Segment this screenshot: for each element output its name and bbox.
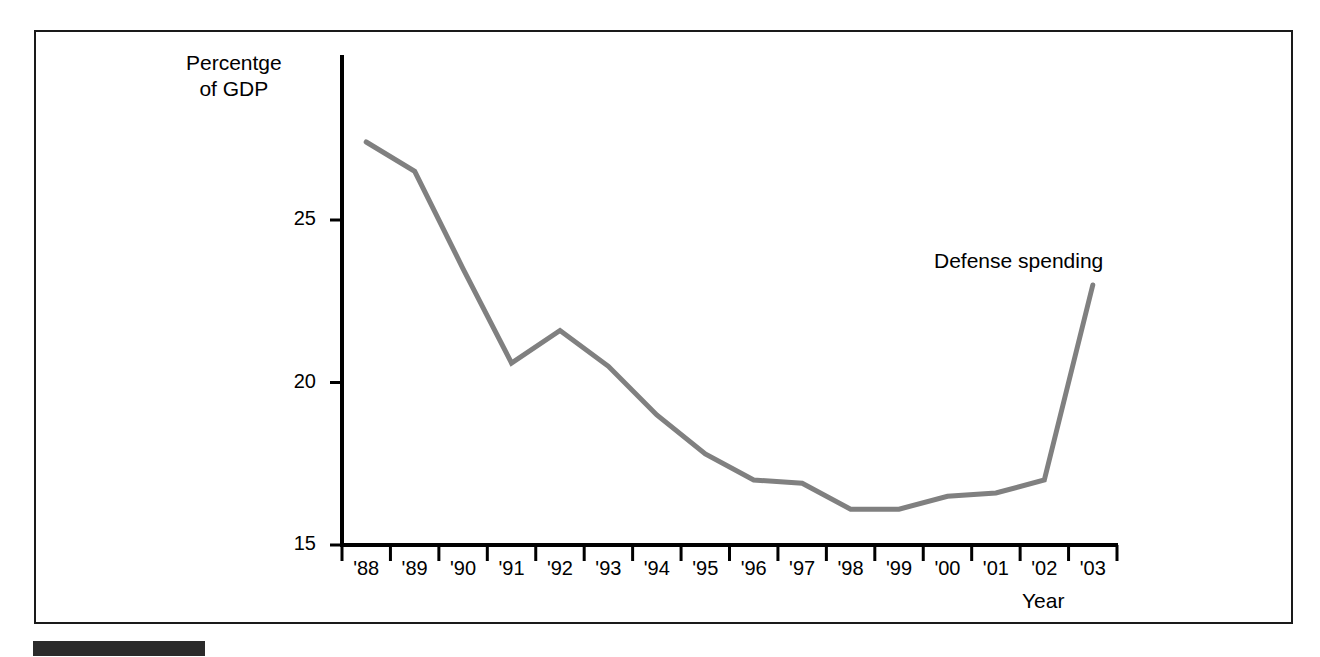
y-axis-title-line: of GDP — [186, 76, 282, 102]
figure-container: Percentgeof GDP Year Defense spending 15… — [0, 0, 1320, 657]
y-axis-tick-label: 20 — [252, 370, 316, 393]
defense-spending-line — [366, 142, 1093, 509]
series-annotation-defense-spending: Defense spending — [934, 249, 1103, 273]
y-axis-tick-label: 25 — [252, 207, 316, 230]
y-axis-title: Percentgeof GDP — [186, 50, 282, 103]
y-axis-tick-label: 15 — [252, 532, 316, 555]
x-axis-title: Year — [1022, 588, 1064, 614]
y-axis-title-line: Percentge — [186, 50, 282, 76]
caption-bar — [33, 641, 205, 656]
x-axis-tick-label: '03 — [1063, 557, 1123, 580]
